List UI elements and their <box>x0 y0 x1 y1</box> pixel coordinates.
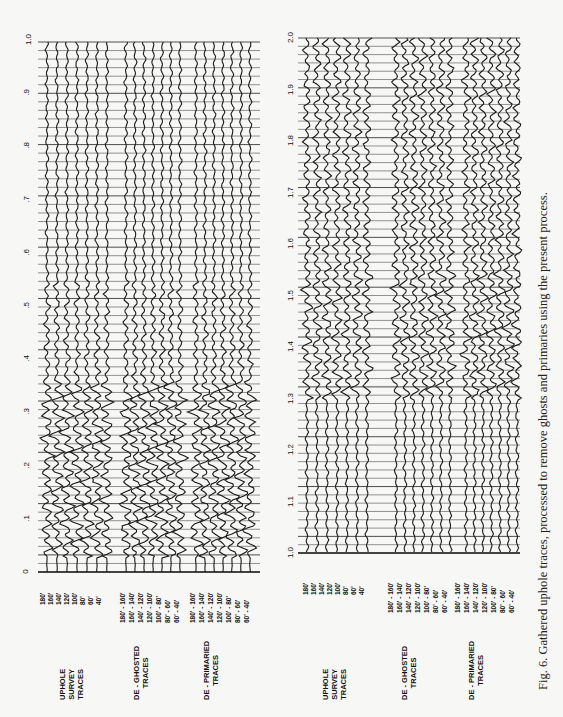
seismic-trace <box>322 38 332 552</box>
time-tick-label: 1.4 <box>286 341 295 352</box>
trace-depth-label: 160' <box>311 583 318 595</box>
trace-depth-label: 40' <box>359 586 366 595</box>
trace-group-title: DE - PRIMARIEDTRACES <box>467 641 485 700</box>
time-tick-label: 1.7 <box>286 186 295 197</box>
time-tick-label: 1.0 <box>24 34 33 45</box>
trace-depth-label: 60' - 40' <box>174 600 181 623</box>
time-tick-label: 1.6 <box>286 238 295 249</box>
seismic-trace <box>390 38 401 552</box>
time-tick-label: .4 <box>22 355 31 362</box>
trace-depth-label: 120' <box>64 593 71 605</box>
trace-depth-label: 100' <box>72 593 79 605</box>
trace-depth-label: 180' - 160' <box>455 582 462 613</box>
trace-depth-label: 80' - 60' <box>500 590 507 613</box>
trace-depth-label: 60' - 40' <box>442 590 449 613</box>
trace-depth-label: 140' <box>56 593 63 605</box>
time-tick-label: 1.8 <box>286 135 295 146</box>
seismic-trace <box>477 38 489 552</box>
left-seismic-panel <box>30 30 270 590</box>
trace-depth-label: 40' <box>96 596 103 605</box>
time-tick-label: 1.0 <box>286 547 295 558</box>
trace-depth-label: 140' - 120' <box>406 582 413 613</box>
time-tick-label: .1 <box>22 515 31 522</box>
trace-depth-label: 180' - 160' <box>120 592 127 623</box>
time-tick-label: 1.5 <box>286 289 295 300</box>
time-tick-label: .9 <box>22 89 31 96</box>
seismic-trace <box>502 38 515 552</box>
trace-depth-label: 100' - 80' <box>226 596 233 623</box>
seismic-trace <box>312 38 322 552</box>
trace-group-title: UPHOLESURVEYTRACES <box>321 669 348 700</box>
time-tick-label: .7 <box>22 196 31 203</box>
trace-depth-label: 100' <box>335 583 342 595</box>
seismic-trace <box>460 38 472 552</box>
seismic-trace <box>511 38 522 552</box>
trace-depth-label: 60' - 40' <box>509 590 516 613</box>
trace-depth-label: 160' - 140' <box>397 582 404 613</box>
right-seismic-traces-plot <box>290 30 530 590</box>
time-tick-label: .2 <box>22 462 31 469</box>
trace-depth-label: 80' - 60' <box>235 600 242 623</box>
trace-depth-label: 100' - 80' <box>424 586 431 613</box>
time-tick-label: .5 <box>22 302 31 309</box>
seismic-trace <box>362 38 373 552</box>
seismic-trace <box>418 38 429 552</box>
left-seismic-traces-plot <box>30 30 270 590</box>
seismic-trace <box>301 38 314 552</box>
trace-depth-label: 60' <box>351 586 358 595</box>
trace-group-title: DE - GHOSTEDTRACES <box>132 646 150 700</box>
time-tick-label: 1.3 <box>286 392 295 403</box>
trace-depth-label: 180' <box>40 593 47 605</box>
trace-depth-label: 80' <box>343 586 350 595</box>
trace-depth-label: 180' - 160' <box>190 592 197 623</box>
trace-group-title: UPHOLESURVEYTRACES <box>58 669 85 700</box>
seismic-trace <box>351 38 363 552</box>
trace-depth-label: 60' <box>88 596 95 605</box>
figure-caption: Fig. 6. Gathered uphole traces, processe… <box>536 192 551 690</box>
time-tick-label: .3 <box>22 409 31 416</box>
trace-depth-label: 120' - 100' <box>415 582 422 613</box>
time-tick-label: 1.9 <box>286 83 295 94</box>
trace-depth-label: 80' <box>80 596 87 605</box>
seismic-trace <box>435 38 446 552</box>
trace-depth-label: 160' - 140' <box>464 582 471 613</box>
time-tick-label: 2.0 <box>286 32 295 43</box>
trace-depth-label: 120' - 100' <box>147 592 154 623</box>
trace-group-title: DE - GHOSTEDTRACES <box>400 646 418 700</box>
time-tick-label: .8 <box>22 143 31 150</box>
trace-depth-label: 140' - 120' <box>473 582 480 613</box>
seismic-trace <box>409 38 420 552</box>
trace-depth-label: 120' - 100' <box>217 592 224 623</box>
trace-depth-label: 120' <box>327 583 334 595</box>
time-tick-label: 1.2 <box>286 444 295 455</box>
time-tick-label: .6 <box>22 249 31 256</box>
trace-depth-label: 180' <box>303 583 310 595</box>
seismic-trace <box>399 38 410 552</box>
seismic-trace <box>331 38 342 552</box>
trace-depth-label: 100' - 80' <box>156 596 163 623</box>
trace-depth-label: 160' <box>48 593 55 605</box>
trace-depth-label: 140' - 120' <box>138 592 145 623</box>
right-seismic-panel <box>290 30 530 590</box>
trace-depth-label: 60' - 40' <box>244 600 251 623</box>
trace-depth-label: 160' - 140' <box>129 592 136 623</box>
seismic-trace <box>444 38 456 552</box>
trace-depth-label: 100' - 80' <box>491 586 498 613</box>
trace-depth-label: 120' - 100' <box>482 582 489 613</box>
seismic-trace <box>486 38 497 552</box>
trace-depth-label: 160' - 140' <box>199 592 206 623</box>
trace-depth-label: 140' - 120' <box>208 592 215 623</box>
seismic-trace <box>470 38 481 552</box>
time-tick-label: 1.1 <box>286 495 295 506</box>
trace-depth-label: 180' - 160' <box>388 582 395 613</box>
time-tick-label: 0 <box>21 569 30 573</box>
seismic-trace <box>341 38 352 552</box>
trace-group-title: DE - PRIMARIEDTRACES <box>202 641 220 700</box>
trace-depth-label: 80' - 60' <box>165 600 172 623</box>
trace-depth-label: 80' - 60' <box>433 590 440 613</box>
trace-depth-label: 140' <box>319 583 326 595</box>
